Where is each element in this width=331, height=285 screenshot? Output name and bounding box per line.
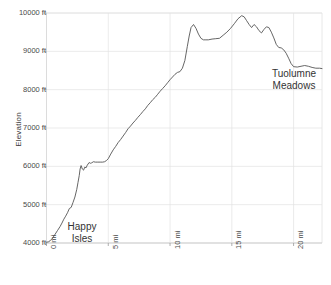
- annotation-happy-isles-line-1: Happy: [56, 221, 108, 233]
- x-tick-label-20: 20 mi: [297, 231, 305, 249]
- x-tick-label-10: 10 mi: [174, 231, 182, 249]
- annotation-tuolumne-meadows-line-1: Tuolumne: [262, 68, 326, 80]
- annotation-tuolumne-meadows: Tuolumne Meadows: [262, 68, 326, 91]
- x-tick-label-15: 15 mi: [235, 231, 243, 249]
- elevation-profile-chart: Elevation 4000 ft5000 ft6000 ft7000 ft80…: [0, 0, 331, 285]
- annotation-tuolumne-meadows-line-2: Meadows: [262, 80, 326, 92]
- x-tick-label-5: 5 mi: [112, 235, 120, 249]
- annotation-happy-isles: Happy Isles: [56, 221, 108, 244]
- annotation-happy-isles-line-2: Isles: [56, 233, 108, 245]
- x-axis-tick-labels: 0 mi5 mi10 mi15 mi20 mi: [0, 0, 331, 285]
